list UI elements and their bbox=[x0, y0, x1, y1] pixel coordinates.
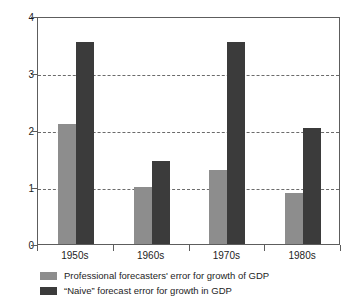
legend-swatch-professional bbox=[40, 272, 57, 280]
x-tick-mark bbox=[189, 245, 190, 251]
bar bbox=[303, 128, 321, 244]
bar bbox=[134, 187, 152, 244]
bar-series-group bbox=[38, 18, 339, 244]
legend-label-professional: Professional forecasters' error for grow… bbox=[64, 270, 269, 281]
bar bbox=[58, 124, 76, 244]
bar bbox=[76, 42, 94, 244]
legend: Professional forecasters' error for grow… bbox=[40, 268, 269, 298]
legend-item: “Naive” forecast error for growth in GDP bbox=[40, 283, 269, 298]
x-tick-label: 1960s bbox=[121, 250, 181, 261]
x-tick-label: 1950s bbox=[45, 250, 105, 261]
x-tick-mark bbox=[113, 245, 114, 251]
bar bbox=[152, 161, 170, 244]
x-tick-label: 1980s bbox=[272, 250, 332, 261]
legend-label-naive: “Naive” forecast error for growth in GDP bbox=[64, 285, 232, 296]
x-tick-label: 1970s bbox=[196, 250, 256, 261]
x-tick-mark bbox=[264, 245, 265, 251]
forecast-error-bar-chart: Forecast error (percent per year) 01234 … bbox=[0, 0, 349, 305]
bar bbox=[209, 170, 227, 244]
bar bbox=[227, 42, 245, 244]
plot-area bbox=[37, 17, 340, 245]
legend-swatch-naive bbox=[40, 287, 57, 295]
bar bbox=[285, 193, 303, 244]
legend-item: Professional forecasters' error for grow… bbox=[40, 268, 269, 283]
x-tick-mark bbox=[340, 245, 341, 251]
x-tick-mark bbox=[37, 245, 38, 251]
